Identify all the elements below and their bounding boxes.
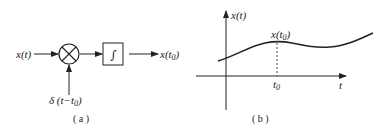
- point-label: x(t0): [270, 28, 291, 42]
- impulse-label: δ (t−t0): [49, 94, 82, 108]
- caption-a: ( a ): [73, 113, 89, 125]
- multiply-circle-icon: [59, 44, 79, 64]
- input-label: x(t): [15, 48, 32, 61]
- panel-a: x(t) δ (t−t0) ∫ x(t0) ( a ): [15, 43, 180, 125]
- caption-b: ( b ): [252, 113, 269, 125]
- integral-icon: ∫: [110, 48, 117, 62]
- panel-b: x(t) t x(t0) t0 ( b ): [196, 9, 373, 125]
- y-axis-label: x(t): [230, 9, 247, 22]
- x-axis-label: t: [339, 79, 343, 91]
- sampling-diagram: x(t) δ (t−t0) ∫ x(t0) ( a ) x(t) t x(t0)…: [0, 0, 385, 129]
- t0-tick-label: t0: [273, 78, 280, 92]
- output-label: x(t0): [159, 48, 180, 62]
- signal-curve: [218, 33, 373, 61]
